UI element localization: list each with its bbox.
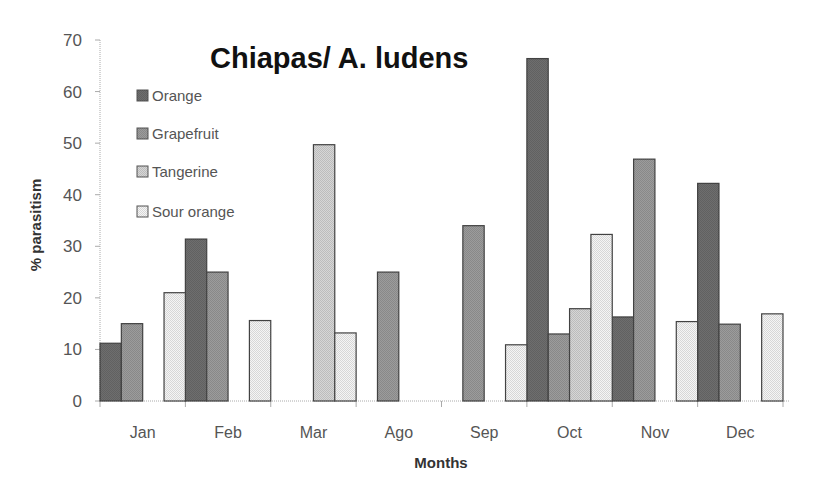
x-category-label: Jan xyxy=(130,424,156,441)
x-category-label: Ago xyxy=(385,424,414,441)
x-category-label: Sep xyxy=(470,424,499,441)
bar-texture xyxy=(207,272,228,401)
y-tick-label: 50 xyxy=(63,134,82,153)
bar-texture xyxy=(527,59,548,401)
bar-texture xyxy=(698,183,719,401)
x-category-label: Feb xyxy=(214,424,242,441)
bar-chart: 010203040506070 JanFebMarAgoSepOctNovDec… xyxy=(0,0,826,490)
legend-label: Sour orange xyxy=(152,203,235,220)
bar-texture xyxy=(570,309,591,401)
chart-title: Chiapas/ A. ludens xyxy=(210,42,468,74)
legend-swatch-texture xyxy=(137,166,148,177)
y-tick-label: 0 xyxy=(73,392,82,411)
bar-texture xyxy=(762,314,783,401)
legend-label: Orange xyxy=(152,87,202,104)
bar-texture xyxy=(100,343,121,401)
bar-texture xyxy=(719,324,740,401)
y-tick-label: 10 xyxy=(63,340,82,359)
legend-swatch-texture xyxy=(137,90,148,101)
bar-texture xyxy=(121,324,142,401)
bar-texture xyxy=(313,145,334,401)
legend-label: Grapefruit xyxy=(152,125,220,142)
bar-texture xyxy=(335,333,356,401)
y-axis-title: % parasitism xyxy=(27,179,44,272)
bar-texture xyxy=(634,159,655,401)
legend: OrangeGrapefruitTangerineSour orange xyxy=(137,87,235,220)
bar-texture xyxy=(185,239,206,401)
bar-texture xyxy=(506,345,527,401)
bar-series-group xyxy=(100,59,783,401)
y-tick-label: 60 xyxy=(63,83,82,102)
y-tick-label: 20 xyxy=(63,289,82,308)
legend-swatch-texture xyxy=(137,128,148,139)
bar-texture xyxy=(377,272,398,401)
x-axis-title: Months xyxy=(414,454,467,471)
legend-label: Tangerine xyxy=(152,163,218,180)
bar-texture xyxy=(612,317,633,401)
bar-texture xyxy=(164,293,185,401)
bar-texture xyxy=(548,334,569,401)
y-tick-label: 30 xyxy=(63,237,82,256)
x-axis: JanFebMarAgoSepOctNovDec xyxy=(100,401,789,441)
y-tick-label: 40 xyxy=(63,186,82,205)
bar-texture xyxy=(591,234,612,401)
bar-texture xyxy=(249,321,270,401)
x-category-label: Dec xyxy=(726,424,754,441)
bar-texture xyxy=(463,226,484,401)
y-tick-label: 70 xyxy=(63,31,82,50)
bar-texture xyxy=(676,322,697,401)
x-category-label: Oct xyxy=(557,424,582,441)
x-category-label: Mar xyxy=(300,424,328,441)
x-category-label: Nov xyxy=(641,424,669,441)
y-axis: 010203040506070 xyxy=(63,31,100,411)
legend-swatch-texture xyxy=(137,206,148,217)
